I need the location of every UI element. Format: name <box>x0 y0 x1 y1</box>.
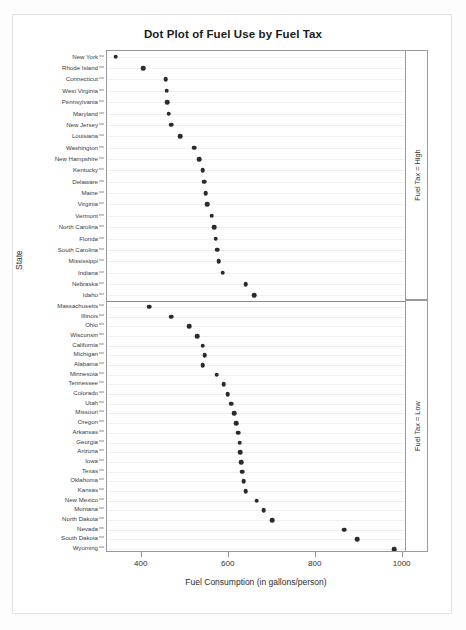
y-axis-tick <box>99 411 104 412</box>
gridline <box>107 510 406 511</box>
gridline <box>107 549 406 550</box>
gridline <box>107 375 406 376</box>
x-axis-tick <box>228 552 229 557</box>
y-axis-tick <box>99 401 104 402</box>
y-axis-tick-label: Alabama <box>74 360 98 367</box>
plot-area <box>106 50 406 552</box>
y-axis-tick-label: Kansas <box>78 486 98 493</box>
gridline <box>107 91 406 92</box>
data-point <box>214 372 219 377</box>
y-axis-tick-label: Missouri <box>75 408 98 415</box>
data-point <box>200 343 205 348</box>
gridline <box>107 394 406 395</box>
y-axis-tick <box>99 421 104 422</box>
data-point <box>195 334 200 339</box>
chart-page: Dot Plot of Fuel Use by Fuel Tax State N… <box>0 0 466 630</box>
gridline <box>107 462 406 463</box>
data-point <box>164 88 169 93</box>
data-point <box>166 111 171 116</box>
x-axis: 4006008001000 <box>106 552 406 553</box>
gridline <box>107 68 406 69</box>
y-axis-tick-label: Minnesota <box>70 369 98 376</box>
y-axis-tick-label: South Dakota <box>61 534 98 541</box>
y-axis-tick <box>99 527 104 528</box>
data-point <box>252 293 257 298</box>
y-axis-tick-label: Oregon <box>78 418 98 425</box>
gridline <box>107 317 406 318</box>
data-point <box>237 440 242 445</box>
y-axis-tick <box>99 237 104 238</box>
gridline <box>107 355 406 356</box>
gridline <box>107 423 406 424</box>
y-axis-tick-label: Louisiana <box>72 132 98 139</box>
data-point <box>187 324 192 329</box>
y-axis-tick <box>99 67 104 68</box>
data-point <box>261 508 266 513</box>
data-point <box>238 450 243 455</box>
data-point <box>220 270 225 275</box>
y-axis-tick-label: Maryland <box>73 109 98 116</box>
data-point <box>392 547 397 552</box>
gridline <box>107 250 406 251</box>
y-axis-tick <box>99 518 104 519</box>
y-axis-tick <box>99 430 104 431</box>
y-axis-tick-label: Arkansas <box>73 427 98 434</box>
y-axis-tick <box>99 89 104 90</box>
gridline <box>107 148 406 149</box>
data-point <box>202 179 207 184</box>
data-point <box>234 421 239 426</box>
y-axis-tick <box>99 304 104 305</box>
y-axis-tick-label: Vermont <box>75 211 98 218</box>
gridline <box>107 530 406 531</box>
data-point <box>141 66 146 71</box>
y-axis-tick <box>99 343 104 344</box>
gridline <box>107 326 406 327</box>
y-axis-tick-label: South Carolina <box>58 245 98 252</box>
y-axis-tick-label: North Carolina <box>59 223 98 230</box>
y-axis-tick <box>99 489 104 490</box>
y-axis-tick-label: Iowa <box>85 456 98 463</box>
data-point <box>240 469 245 474</box>
y-axis-tick <box>99 392 104 393</box>
y-axis-tick-label: Oklahoma <box>70 476 98 483</box>
data-point <box>147 305 152 310</box>
y-axis-tick <box>99 78 104 79</box>
gridline <box>107 472 406 473</box>
gridline <box>107 413 406 414</box>
y-axis-tick-label: New Mexico <box>65 495 98 502</box>
strip-label-low-text: Fuel Tax = Low <box>412 401 421 451</box>
data-point <box>270 518 275 523</box>
y-axis-tick-label: Texas <box>82 466 98 473</box>
y-axis-tick <box>99 508 104 509</box>
data-point <box>215 248 220 253</box>
data-point <box>254 498 259 503</box>
gridline <box>107 491 406 492</box>
y-axis-tick <box>99 260 104 261</box>
y-axis-tick <box>99 498 104 499</box>
page-title: Dot Plot of Fuel Use by Fuel Tax <box>0 28 466 40</box>
gridline <box>107 239 406 240</box>
data-point <box>165 100 170 105</box>
y-axis-tick <box>99 282 104 283</box>
y-axis-tick <box>99 333 104 334</box>
y-axis-tick <box>99 479 104 480</box>
strip-label-high: Fuel Tax = High <box>406 50 428 300</box>
y-axis-tick <box>99 314 104 315</box>
strip-label-high-text: Fuel Tax = High <box>412 149 421 200</box>
y-axis-tick <box>99 226 104 227</box>
data-point <box>243 282 248 287</box>
y-axis-tick <box>99 203 104 204</box>
y-axis-tick <box>99 440 104 441</box>
data-point <box>342 527 347 532</box>
data-point <box>232 411 237 416</box>
y-axis-tick <box>99 192 104 193</box>
x-axis-tick-label: 600 <box>221 559 234 568</box>
y-axis-tick <box>99 157 104 158</box>
y-axis-tick <box>99 537 104 538</box>
y-axis-tick <box>99 294 104 295</box>
y-axis-tick-label: Delaware <box>72 177 98 184</box>
y-axis-tick <box>99 169 104 170</box>
y-axis-tick-label: New Hampshire <box>55 154 98 161</box>
y-axis-tick <box>99 382 104 383</box>
data-point <box>197 157 202 162</box>
